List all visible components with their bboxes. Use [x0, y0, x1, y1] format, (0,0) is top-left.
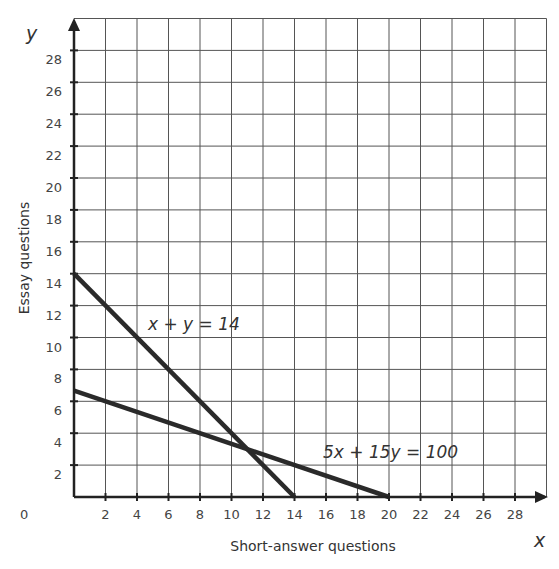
grid	[74, 19, 547, 498]
x-tick-label: 10	[223, 507, 240, 522]
chart: 2468101214161820222426282468101214161820…	[0, 0, 559, 569]
y-tick-label: 16	[45, 244, 62, 259]
y-tick-label: 20	[45, 180, 62, 195]
x-tick-label: 26	[475, 507, 492, 522]
x-tick-label: 2	[101, 507, 109, 522]
x-tick-label: 6	[164, 507, 172, 522]
x-tick-label: 18	[349, 507, 366, 522]
y-tick-label: 10	[45, 340, 62, 355]
x-tick-label: 28	[507, 507, 524, 522]
y-tick-label: 28	[45, 52, 62, 67]
eq1-annotation: x + y = 14	[147, 314, 240, 334]
y-axis-arrow-icon	[68, 18, 80, 31]
x-tick-label: 24	[444, 507, 461, 522]
x-axis-title: Short-answer questions	[230, 538, 395, 554]
x-tick-label: 22	[412, 507, 429, 522]
y-tick-label: 22	[45, 148, 62, 163]
y-tick-label: 18	[45, 212, 62, 227]
y-tick-label: 2	[54, 467, 62, 482]
y-tick-label: 24	[45, 116, 62, 131]
x-tick-label: 8	[196, 507, 204, 522]
y-var-label: y	[25, 22, 38, 44]
x-tick-label: 20	[381, 507, 398, 522]
y-tick-label: 26	[45, 84, 62, 99]
eq2-annotation: 5x + 15y = 100	[323, 442, 458, 462]
origin-label: 0	[20, 507, 28, 522]
y-tick-label: 12	[45, 308, 62, 323]
y-tick-label: 14	[45, 276, 62, 291]
x-tick-label: 14	[286, 507, 303, 522]
y-tick-label: 6	[54, 403, 62, 418]
y-axis-title: Essay questions	[16, 202, 32, 315]
y-tick-label: 4	[54, 435, 62, 450]
x-tick-label: 4	[133, 507, 141, 522]
x-tick-label: 16	[318, 507, 335, 522]
series-line	[74, 274, 295, 497]
axes	[68, 18, 548, 503]
x-var-label: x	[533, 529, 546, 551]
y-tick-label: 8	[54, 371, 62, 386]
x-tick-label: 12	[255, 507, 272, 522]
